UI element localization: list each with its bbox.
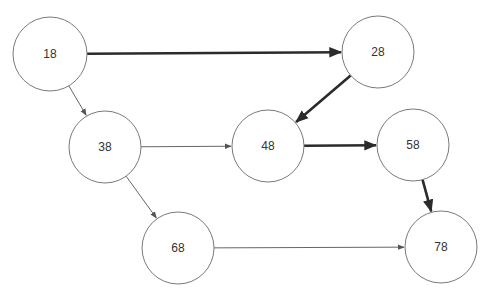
edge-38-to-68 — [126, 176, 156, 218]
nodes-layer: 18283848586878 — [13, 16, 477, 284]
node-label: 78 — [434, 240, 448, 254]
edge-18-to-38 — [69, 86, 86, 115]
node-58: 58 — [377, 109, 449, 181]
edge-38-to-48 — [141, 146, 231, 147]
node-38: 38 — [69, 111, 141, 183]
edge-28-to-48 — [296, 75, 351, 122]
edge-68-to-78 — [214, 247, 404, 248]
edge-18-to-28 — [87, 52, 341, 54]
node-label: 38 — [98, 140, 112, 154]
node-label: 28 — [371, 45, 385, 59]
graph-canvas: 18283848586878 — [0, 0, 490, 301]
node-label: 68 — [171, 241, 185, 255]
node-label: 58 — [406, 138, 420, 152]
edge-58-to-78 — [423, 180, 432, 212]
node-18: 18 — [13, 17, 87, 91]
node-label: 18 — [43, 47, 57, 61]
node-28: 28 — [342, 16, 414, 88]
node-78: 78 — [405, 211, 477, 283]
node-68: 68 — [142, 212, 214, 284]
node-label: 48 — [261, 139, 275, 153]
node-48: 48 — [232, 110, 304, 182]
graph-svg: 18283848586878 — [0, 0, 490, 301]
